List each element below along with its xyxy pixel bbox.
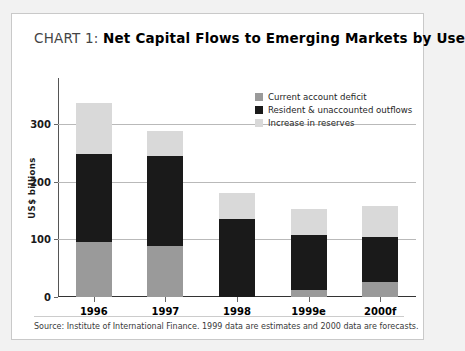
bar-group[interactable] — [147, 78, 183, 297]
bar-segment[interactable] — [362, 206, 398, 237]
legend-swatch — [255, 119, 263, 127]
y-tick-mark — [54, 239, 58, 240]
bar-segment[interactable] — [291, 290, 327, 297]
bar-group[interactable] — [219, 78, 255, 297]
x-tick-mark — [380, 297, 381, 302]
bar-stack[interactable] — [219, 193, 255, 297]
legend-label: Resident & unaccounted outflows — [268, 105, 412, 115]
y-axis-title: US$ billions — [25, 78, 39, 297]
bar-segment[interactable] — [76, 103, 112, 154]
bar-segment[interactable] — [291, 235, 327, 290]
bar-stack[interactable] — [147, 131, 183, 297]
bar-stack[interactable] — [76, 103, 112, 297]
y-tick-mark — [54, 297, 58, 298]
x-tick-mark — [165, 297, 166, 302]
bar-segment[interactable] — [362, 237, 398, 283]
legend-item[interactable]: Current account deficit — [255, 90, 412, 103]
bar-segment[interactable] — [362, 282, 398, 297]
bar-stack[interactable] — [362, 206, 398, 297]
bar-segment[interactable] — [219, 219, 255, 297]
bar-segment[interactable] — [291, 209, 327, 234]
legend-item[interactable]: Resident & unaccounted outflows — [255, 103, 412, 116]
y-tick-mark — [54, 182, 58, 183]
bar-stack[interactable] — [291, 209, 327, 297]
y-axis-title-text: US$ billions — [27, 157, 37, 218]
y-tick-label: 100 — [30, 234, 51, 245]
chart-card: CHART 1: Net Capital Flows to Emerging M… — [11, 13, 424, 340]
chart-legend: Current account deficitResident & unacco… — [255, 90, 412, 129]
bar-segment[interactable] — [147, 156, 183, 246]
y-tick-label: 300 — [30, 119, 51, 130]
legend-item[interactable]: Increase in reserves — [255, 116, 412, 129]
chart-title-text: Net Capital Flows to Emerging Markets by… — [103, 30, 465, 46]
y-tick-label: 0 — [44, 292, 51, 303]
footer-divider — [34, 316, 404, 317]
bar-segment[interactable] — [76, 154, 112, 242]
bar-segment[interactable] — [147, 246, 183, 297]
legend-label: Increase in reserves — [268, 118, 354, 128]
bar-segment[interactable] — [219, 193, 255, 218]
y-tick-mark — [54, 124, 58, 125]
x-tick-mark — [237, 297, 238, 302]
legend-label: Current account deficit — [268, 92, 367, 102]
legend-swatch — [255, 106, 263, 114]
bar-segment[interactable] — [76, 242, 112, 297]
bar-group[interactable] — [76, 78, 112, 297]
x-tick-mark — [94, 297, 95, 302]
page-title: CHART 1: Net Capital Flows to Emerging M… — [34, 30, 465, 46]
x-tick-mark — [309, 297, 310, 302]
source-note: Source: Institute of International Finan… — [34, 322, 419, 331]
legend-swatch — [255, 93, 263, 101]
bar-segment[interactable] — [147, 131, 183, 156]
chart-number-label: CHART 1: — [34, 30, 99, 46]
y-tick-label: 200 — [30, 176, 51, 187]
